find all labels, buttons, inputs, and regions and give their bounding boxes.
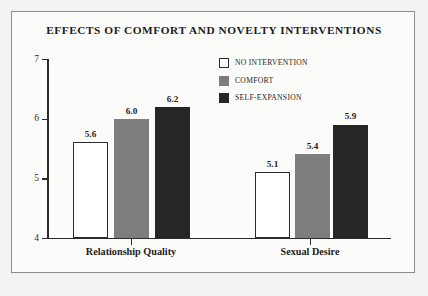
legend-swatch-icon-no-intervention <box>219 58 229 68</box>
y-tick-label-6: 6 <box>19 113 39 123</box>
x-category-label-relationship-quality: Relationship Quality <box>56 246 206 257</box>
y-axis-line <box>47 59 49 239</box>
bar-value-relationship-quality-comfort: 6.0 <box>114 106 149 116</box>
bar-relationship-quality-self-expansion <box>155 107 190 238</box>
x-tick-mark-relationship-quality <box>131 239 132 245</box>
y-tick-mark-4 <box>42 238 47 239</box>
legend-label-comfort: COMFORT <box>235 76 273 85</box>
legend-swatch-icon-comfort <box>219 76 229 86</box>
chart-figure: EFFECTS OF COMFORT AND NOVELTY INTERVENT… <box>0 0 428 296</box>
bar-value-relationship-quality-self-expansion: 6.2 <box>155 94 190 104</box>
y-tick-mark-5 <box>42 178 47 179</box>
bar-sexual-desire-self-expansion <box>333 125 368 238</box>
x-category-label-sexual-desire: Sexual Desire <box>245 246 375 257</box>
bar-value-sexual-desire-self-expansion: 5.9 <box>333 111 368 121</box>
x-tick-mark-sexual-desire <box>310 239 311 245</box>
plot-area: 7 6 5 4 5.6 6.0 6.2 Relationship Quality… <box>0 0 428 296</box>
bar-value-sexual-desire-no-intervention: 5.1 <box>255 159 290 169</box>
legend-label-self-expansion: SELF-EXPANSION <box>235 93 302 102</box>
y-tick-mark-7 <box>42 59 47 60</box>
bar-value-sexual-desire-comfort: 5.4 <box>295 141 330 151</box>
legend-swatch-icon-self-expansion <box>219 93 229 103</box>
legend-label-no-intervention: NO INTERVENTION <box>235 58 308 67</box>
y-tick-mark-6 <box>42 119 47 120</box>
bar-sexual-desire-no-intervention <box>255 172 290 238</box>
bar-sexual-desire-comfort <box>295 154 330 238</box>
bar-relationship-quality-no-intervention <box>73 142 108 238</box>
bar-relationship-quality-comfort <box>114 119 149 238</box>
y-tick-label-5: 5 <box>19 173 39 183</box>
y-tick-label-7: 7 <box>19 54 39 64</box>
y-tick-label-4: 4 <box>19 233 39 243</box>
bar-value-relationship-quality-no-intervention: 5.6 <box>73 129 108 139</box>
